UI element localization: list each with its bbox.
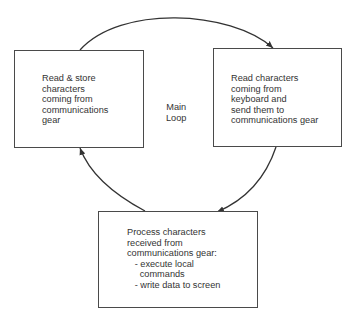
arrow-read-store-to-read-keyboard <box>80 18 273 50</box>
arrow-read-keyboard-to-process <box>217 147 276 212</box>
node-process: Process characters received from communi… <box>98 211 258 308</box>
main-loop-label: Main Loop <box>166 102 186 123</box>
node-process-label: Process characters received from communi… <box>127 227 220 291</box>
node-read-store-label: Read & store characters coming from comm… <box>42 73 108 126</box>
node-read-store: Read & store characters coming from comm… <box>14 50 144 148</box>
node-read-keyboard-label: Read characters coming from keyboard and… <box>231 73 318 126</box>
node-read-keyboard: Read characters coming from keyboard and… <box>213 48 342 147</box>
arrow-process-to-read-store <box>80 148 145 211</box>
